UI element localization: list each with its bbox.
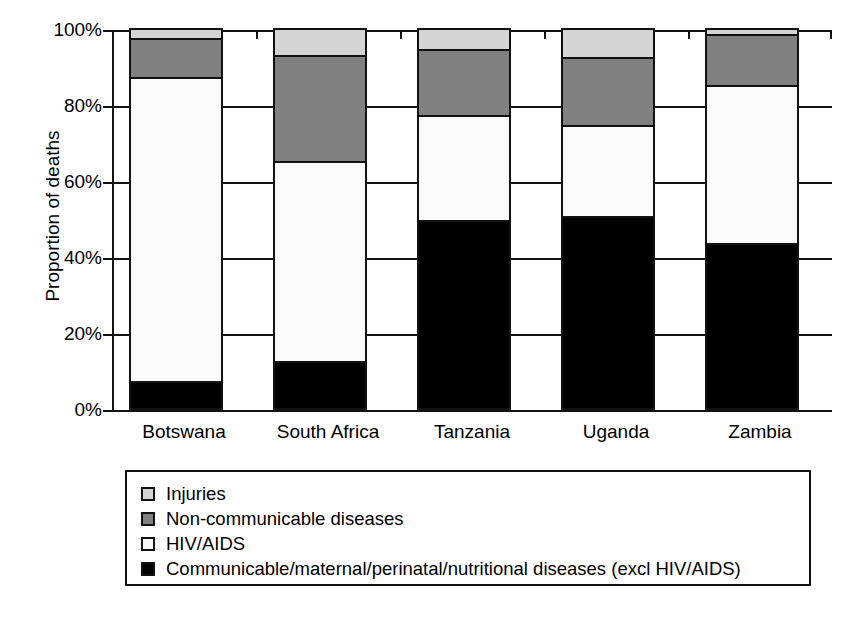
plot-area <box>112 30 832 410</box>
y-tickmark-40 <box>103 258 112 260</box>
legend-item-non-communicable: Non-communicable diseases <box>141 506 809 531</box>
y-tick-label-100: 100% <box>38 20 102 39</box>
segment-communicable <box>417 220 511 410</box>
segment-hiv-aids <box>705 85 799 245</box>
segment-communicable <box>561 216 655 410</box>
bar-south-africa <box>273 30 367 410</box>
y-tickmark-20 <box>103 334 112 336</box>
hiv-aids-swatch-icon <box>141 537 155 551</box>
legend-item-injuries: Injuries <box>141 481 809 506</box>
segment-non-communicable <box>561 57 655 127</box>
x-tick-label-tanzania: Tanzania <box>400 421 544 443</box>
x-tick-label-south-africa: South Africa <box>256 421 400 443</box>
y-tickmark-80 <box>103 106 112 108</box>
segment-injuries <box>129 28 223 40</box>
legend-label-non-communicable: Non-communicable diseases <box>166 509 404 529</box>
segment-hiv-aids <box>273 161 367 363</box>
segment-non-communicable <box>273 55 367 163</box>
segment-non-communicable <box>129 38 223 80</box>
segment-non-communicable <box>417 49 511 118</box>
segment-hiv-aids <box>129 77 223 383</box>
x-tick-label-zambia: Zambia <box>688 421 832 443</box>
y-tick-label-40: 40% <box>38 248 102 267</box>
segment-injuries <box>561 28 655 59</box>
segment-hiv-aids <box>417 115 511 222</box>
y-tick-label-0: 0% <box>38 400 102 419</box>
x-tickmark-5 <box>830 30 832 39</box>
x-tickmark-1 <box>256 30 258 39</box>
y-tick-label-60: 60% <box>38 172 102 191</box>
injuries-swatch-icon <box>141 487 155 501</box>
legend-label-communicable: Communicable/maternal/perinatal/nutritio… <box>166 559 741 579</box>
y-tickmark-60 <box>103 182 112 184</box>
segment-communicable <box>705 243 799 410</box>
bar-zambia <box>705 30 799 410</box>
communicable-swatch-icon <box>141 562 155 576</box>
y-tickmark-0 <box>103 410 112 412</box>
legend-label-hiv-aids: HIV/AIDS <box>166 534 245 554</box>
x-tickmark-2 <box>400 30 402 39</box>
y-tickmark-100 <box>103 30 112 32</box>
legend-item-hiv-aids: HIV/AIDS <box>141 531 809 556</box>
x-tick-label-botswana: Botswana <box>112 421 256 443</box>
bar-tanzania <box>417 30 511 410</box>
segment-injuries <box>273 28 367 57</box>
bar-botswana <box>129 30 223 410</box>
x-tickmark-3 <box>544 30 546 39</box>
x-tickmark-0 <box>112 30 114 39</box>
segment-communicable <box>273 361 367 411</box>
y-tick-label-80: 80% <box>38 96 102 115</box>
x-axis-line <box>112 410 832 412</box>
legend-label-injuries: Injuries <box>166 484 226 504</box>
segment-communicable <box>129 381 223 410</box>
segment-injuries <box>417 28 511 51</box>
chart-figure: Proportion of deaths 100% 80% 60% 40% 20… <box>0 0 856 618</box>
segment-hiv-aids <box>561 125 655 218</box>
y-tick-label-20: 20% <box>38 324 102 343</box>
bar-uganda <box>561 30 655 410</box>
chart-legend: Injuries Non-communicable diseases HIV/A… <box>125 470 811 586</box>
segment-non-communicable <box>705 34 799 87</box>
x-tick-label-uganda: Uganda <box>544 421 688 443</box>
segment-injuries <box>705 28 799 36</box>
x-tickmark-4 <box>688 30 690 39</box>
y-axis-line <box>112 30 114 410</box>
legend-item-communicable: Communicable/maternal/perinatal/nutritio… <box>141 556 809 581</box>
non-communicable-swatch-icon <box>141 512 155 526</box>
y-axis-tick-labels: 100% 80% 60% 40% 20% 0% <box>38 0 102 618</box>
